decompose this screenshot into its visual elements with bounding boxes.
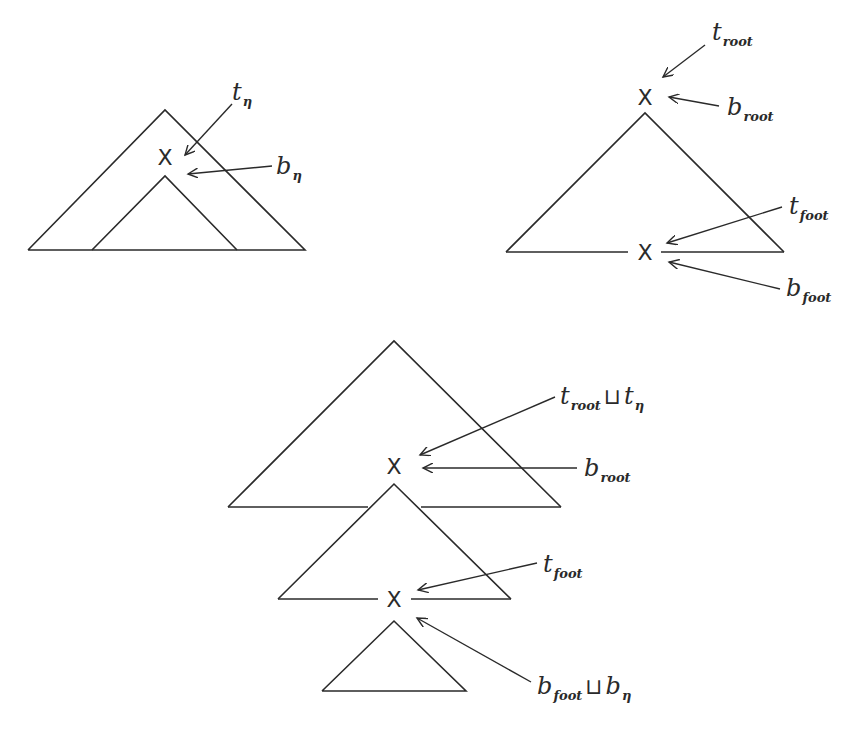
label-t-foot: tfoot [789,194,829,222]
arrow-b-foot [669,262,780,289]
node-x-eta: X [157,147,172,169]
upper-triangle [228,341,561,507]
node-x-derived-foot: X [386,589,401,611]
lower-subtree-triangle [322,621,466,691]
arrow-t-root-join-t-eta [420,397,555,455]
diagram-lines [0,0,850,730]
arrow-t-root [663,45,705,77]
arrow-b-root [669,97,719,106]
label-b-foot: bfoot [786,276,831,304]
label-t-root-join-t-eta: troot⊔tη [560,384,644,412]
arrow-t-foot [667,207,782,243]
node-x-aux-foot: X [637,242,652,264]
label-b-root-derived: broot [584,456,631,484]
label-b-foot-join-b-eta: bfoot⊔bη [537,674,631,702]
arrow-t-eta [185,104,232,155]
tree-eta [28,104,305,250]
arrow-b-eta [188,166,272,174]
aux-triangle-left-right [506,113,784,252]
label-b-root: broot [727,95,774,123]
label-b-eta: bη [276,154,302,182]
label-t-root: troot [712,20,753,48]
node-x-aux-root: X [637,87,652,109]
derived-tree [228,341,577,691]
node-x-derived-root: X [386,456,401,478]
outer-triangle [28,110,305,250]
label-t-foot-derived: tfoot [543,552,583,580]
adjunction-diagram: X X X X X tη bη troot broot tfoot bfoot … [0,0,850,730]
arrow-b-foot-join-b-eta [417,618,531,682]
middle-triangle [278,484,511,599]
label-t-eta: tη [232,80,252,108]
inner-subtree-triangle [92,176,237,250]
